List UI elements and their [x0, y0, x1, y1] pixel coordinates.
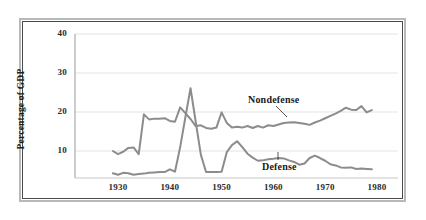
x-tick-1950: 1950 [207, 182, 237, 192]
annotation-leader-lines [276, 106, 287, 160]
gridlines [75, 34, 398, 151]
figure-container: 10203040 193019401950196019701980 Percen… [0, 0, 426, 220]
series-line-defense [113, 88, 372, 175]
x-tick-1940: 1940 [155, 182, 185, 192]
x-tick-1930: 1930 [103, 182, 133, 192]
series-label-defense: Defense [262, 161, 297, 172]
y-tick-30: 30 [47, 67, 67, 77]
y-tick-40: 40 [47, 28, 67, 38]
axis-lines [75, 34, 398, 178]
x-tick-1970: 1970 [310, 182, 340, 192]
x-tick-1980: 1980 [362, 182, 392, 192]
x-tick-1960: 1960 [258, 182, 288, 192]
y-tick-10: 10 [47, 145, 67, 155]
data-series-lines [113, 88, 372, 175]
series-label-nondefense: Nondefense [248, 94, 299, 105]
plot-area: 10203040 193019401950196019701980 Percen… [0, 0, 426, 220]
y-axis-title: Percentage of GDP [16, 54, 26, 164]
y-tick-20: 20 [47, 106, 67, 116]
